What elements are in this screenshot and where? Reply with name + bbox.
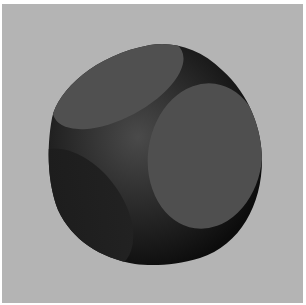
sphere-cube-render	[0, 0, 306, 305]
